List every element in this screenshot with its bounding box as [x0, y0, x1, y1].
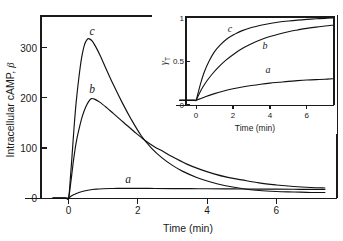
- inset-y-ticklabel-1: 1: [180, 14, 185, 23]
- main-x-ticklabel-6: 6: [274, 205, 280, 216]
- main-x-ticklabel-2: 2: [135, 205, 141, 216]
- svg-text:Intracellular cAMP,β: Intracellular cAMP,β: [4, 62, 16, 158]
- figure-root: 300 200 100 0 0 2 4 6 Time (min) Intrace…: [0, 0, 343, 241]
- main-x-ticklabel-0: 0: [66, 205, 72, 216]
- inset-x-ticklabel-6: 6: [305, 111, 310, 120]
- main-y-axis-title: Intracellular cAMP,β: [4, 62, 16, 158]
- main-curve-label-c: c: [89, 25, 94, 37]
- main-curve-a: [53, 188, 325, 198]
- main-y-ticklabel-100: 100: [20, 143, 37, 154]
- inset-background: [152, 10, 337, 134]
- main-x-axis-title: Time (min): [163, 222, 213, 234]
- inset-x-axis-title: Time (min): [235, 123, 275, 133]
- main-y-ticklabel-200: 200: [20, 93, 37, 104]
- figure-svg: 300 200 100 0 0 2 4 6 Time (min) Intrace…: [0, 0, 343, 241]
- inset-x-ticklabel-0: 0: [194, 111, 199, 120]
- main-x-ticklabel-4: 4: [204, 205, 210, 216]
- main-y-ticks: [41, 48, 47, 199]
- inset-curve-label-a: a: [266, 64, 271, 75]
- main-curve-label-a: a: [125, 173, 131, 185]
- inset-y-ticklabel-0_5: 0.5: [173, 57, 185, 66]
- main-y-axis-title-symbol: β: [5, 62, 16, 69]
- inset-curve-label-c: c: [228, 23, 233, 34]
- main-y-ticklabel-0: 0: [31, 193, 37, 204]
- inset-x-ticklabel-2: 2: [231, 111, 236, 120]
- inset-curve-label-b: b: [263, 40, 268, 51]
- inset-y-axis-title-subscript: T: [164, 57, 171, 61]
- main-curve-label-b: b: [89, 83, 95, 95]
- inset-y-ticklabel-0: 0: [180, 101, 185, 110]
- main-y-ticklabel-300: 300: [20, 43, 37, 54]
- inset-plot: 1 0.5 0 0 2 4 6 Time (min) γT: [152, 10, 337, 134]
- main-y-axis-title-text: Intracellular cAMP,: [4, 71, 16, 158]
- inset-x-ticklabel-4: 4: [268, 111, 273, 120]
